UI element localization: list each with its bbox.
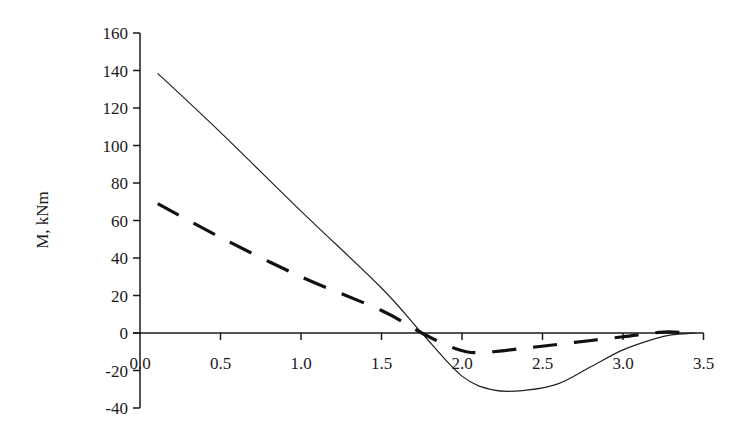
y-axis-title: M, kNm <box>33 191 52 249</box>
y-tick-label: 100 <box>103 137 129 156</box>
x-axis: 0.00.51.01.52.02.53.03.5 <box>129 333 714 373</box>
x-tick-label: 3.5 <box>693 354 714 373</box>
y-tick-label: 60 <box>111 212 128 231</box>
y-tick-label: 80 <box>111 174 128 193</box>
moment-line-chart: 160140120100806040200-20-40 0.00.51.01.5… <box>0 0 751 432</box>
x-tick-label: 3.0 <box>612 354 633 373</box>
series-layer <box>158 73 696 391</box>
x-tick-label: 0.0 <box>129 354 150 373</box>
x-tick-label: 1.5 <box>371 354 392 373</box>
y-tick-label: 20 <box>111 287 128 306</box>
series-dashed-line <box>158 204 688 353</box>
y-tick-label: -40 <box>105 399 128 418</box>
series-solid-line <box>158 73 696 391</box>
x-tick-label: 2.5 <box>532 354 553 373</box>
y-tick-label: 40 <box>111 249 128 268</box>
y-tick-label: 160 <box>103 24 129 43</box>
x-tick-label: 0.5 <box>210 354 231 373</box>
y-tick-label: 0 <box>120 324 129 343</box>
y-tick-label: -20 <box>105 362 128 381</box>
x-tick-label: 1.0 <box>290 354 311 373</box>
y-tick-label: 120 <box>103 99 129 118</box>
y-tick-label: 140 <box>103 62 129 81</box>
